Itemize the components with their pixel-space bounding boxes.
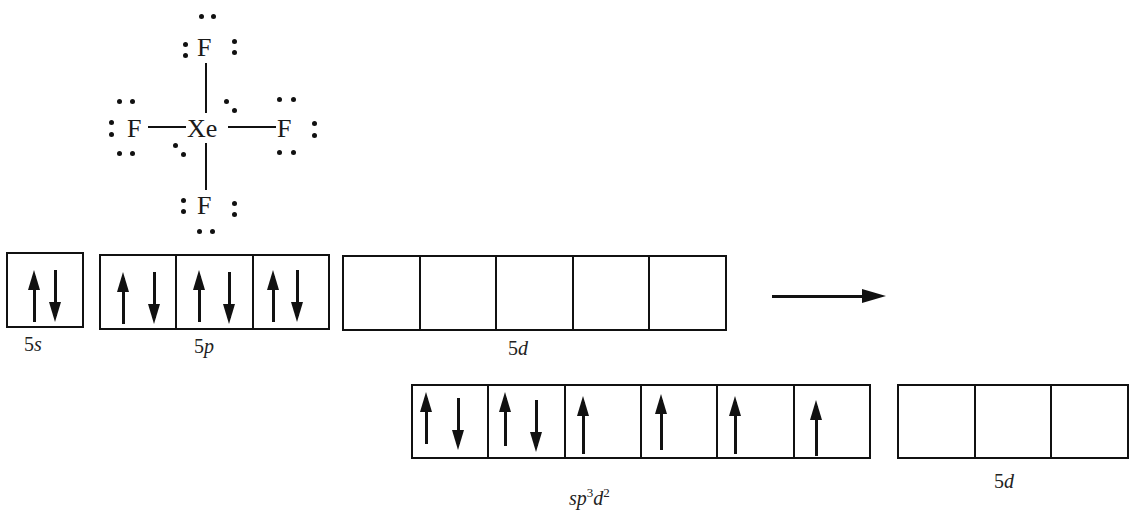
orbital-box xyxy=(1052,386,1127,457)
orbital-5d-remaining xyxy=(897,384,1129,459)
label-letter: d xyxy=(1004,470,1014,492)
lone-pair-dot xyxy=(130,151,135,156)
orbital-sp3d2 xyxy=(411,384,871,459)
label-p: p xyxy=(577,487,587,509)
orbital-box xyxy=(497,257,574,329)
lewis-structure: F F Xe F F xyxy=(0,0,340,240)
orbital-box xyxy=(413,386,489,457)
spin-up-arrow xyxy=(815,406,818,456)
xe-lone-pair-dot xyxy=(181,152,186,157)
orbital-label-5d-remaining: 5d xyxy=(994,470,1014,493)
lone-pair-dot xyxy=(181,209,186,214)
orbital-box xyxy=(718,386,794,457)
orbital-label-sp3d2: sp3d2 xyxy=(569,485,610,510)
lone-pair-dot xyxy=(312,121,317,126)
spin-up-arrow xyxy=(198,276,201,322)
label-letter: d xyxy=(518,337,528,359)
fluorine-atom-right: F xyxy=(277,116,291,142)
orbital-5p xyxy=(99,254,330,330)
lone-pair-dot xyxy=(181,198,186,203)
lone-pair-dot xyxy=(183,42,188,47)
spin-up-arrow xyxy=(504,398,507,446)
orbital-box xyxy=(795,386,869,457)
label-number: 5 xyxy=(994,470,1004,492)
lone-pair-dot xyxy=(232,201,237,206)
spin-up-arrow xyxy=(582,402,585,454)
lone-pair-dot xyxy=(130,99,135,104)
fluorine-atom-top: F xyxy=(197,35,211,61)
bond-xe-f-right xyxy=(228,126,276,128)
spin-up-arrow xyxy=(425,398,428,444)
transition-arrow-shaft xyxy=(772,295,866,298)
xe-lone-pair-dot xyxy=(173,143,178,148)
bond-xe-f-left xyxy=(148,126,186,128)
lone-pair-dot xyxy=(291,150,296,155)
lone-pair-dot xyxy=(183,53,188,58)
spin-up-arrow xyxy=(660,400,663,450)
spin-up-arrow xyxy=(272,276,275,322)
spin-down-arrow xyxy=(296,270,299,316)
label-number: 5 xyxy=(194,335,204,357)
label-letter: p xyxy=(204,335,214,357)
label-number: 5 xyxy=(24,333,34,355)
label-s: s xyxy=(569,487,577,509)
lone-pair-dot xyxy=(117,99,122,104)
spin-down-arrow xyxy=(457,398,460,444)
lone-pair-dot xyxy=(232,39,237,44)
spin-up-arrow xyxy=(33,276,36,322)
orbital-box xyxy=(899,386,976,457)
orbital-5d xyxy=(342,255,727,331)
lone-pair-dot xyxy=(232,212,237,217)
spin-down-arrow xyxy=(228,272,231,318)
right-arrow-icon xyxy=(862,289,886,303)
lone-pair-dot xyxy=(277,150,282,155)
orbital-box xyxy=(650,257,725,329)
lone-pair-dot xyxy=(277,97,282,102)
label-d: d xyxy=(593,487,603,509)
xenon-atom: Xe xyxy=(187,116,217,142)
label-letter: s xyxy=(34,333,42,355)
orbital-box xyxy=(254,256,328,328)
lone-pair-dot xyxy=(211,14,216,19)
orbital-label-5d: 5d xyxy=(508,337,528,360)
orbital-box xyxy=(489,386,565,457)
fluorine-atom-left: F xyxy=(127,116,141,142)
lone-pair-dot xyxy=(197,229,202,234)
spin-up-arrow xyxy=(122,278,125,324)
bond-xe-f-bottom xyxy=(205,143,207,190)
orbital-box xyxy=(574,257,651,329)
label-d-sup: 2 xyxy=(603,485,610,500)
orbital-5s xyxy=(6,252,84,328)
orbital-box xyxy=(566,386,642,457)
orbital-label-5p: 5p xyxy=(194,335,214,358)
lone-pair-dot xyxy=(312,133,317,138)
orbital-box xyxy=(177,256,253,328)
lone-pair-dot xyxy=(109,120,114,125)
spin-down-arrow xyxy=(535,400,538,446)
orbital-box xyxy=(344,257,421,329)
spin-up-arrow xyxy=(734,402,737,454)
orbital-box xyxy=(642,386,718,457)
orbital-box xyxy=(421,257,498,329)
lone-pair-dot xyxy=(232,50,237,55)
orbital-box xyxy=(101,256,177,328)
bond-xe-f-top xyxy=(205,63,207,113)
lone-pair-dot xyxy=(117,151,122,156)
lone-pair-dot xyxy=(199,14,204,19)
spin-down-arrow xyxy=(54,270,57,316)
lone-pair-dot xyxy=(109,132,114,137)
label-number: 5 xyxy=(508,337,518,359)
xe-lone-pair-dot xyxy=(232,108,237,113)
orbital-label-5s: 5s xyxy=(24,333,42,356)
spin-down-arrow xyxy=(153,272,156,318)
fluorine-atom-bottom: F xyxy=(197,193,211,219)
orbital-box xyxy=(8,254,82,326)
lone-pair-dot xyxy=(291,97,296,102)
lone-pair-dot xyxy=(210,229,215,234)
xe-lone-pair-dot xyxy=(224,99,229,104)
orbital-box xyxy=(976,386,1053,457)
